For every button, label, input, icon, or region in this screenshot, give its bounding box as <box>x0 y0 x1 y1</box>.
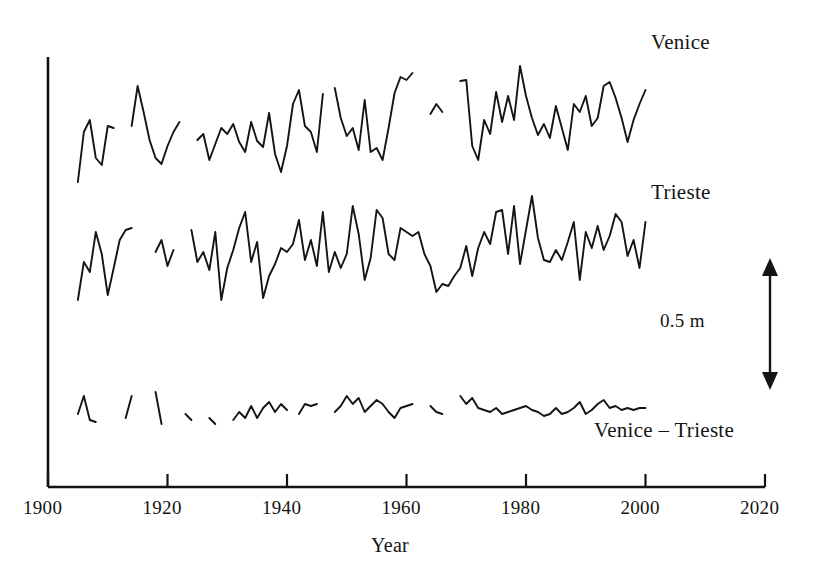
x-tick-label-1960: 1960 <box>382 497 421 519</box>
x-tick-label-1940: 1940 <box>262 497 301 519</box>
series-segment-2-1 <box>126 396 132 418</box>
series-segment-2-2 <box>156 392 162 424</box>
scale-bar-arrow <box>762 258 778 390</box>
series-segment-2-7 <box>335 396 413 418</box>
series-segment-2-3 <box>185 414 191 420</box>
series-segment-2-4 <box>209 418 215 424</box>
scale-bar-arrowhead-up <box>762 258 778 276</box>
series-segment-2-8 <box>430 406 442 414</box>
x-tick-label-1920: 1920 <box>143 497 182 519</box>
series-segment-0-2 <box>197 90 322 172</box>
series-segment-2-9 <box>460 396 645 416</box>
series-segment-0-5 <box>460 66 645 160</box>
x-tick-label-1900: 1900 <box>23 497 62 519</box>
series-label-venice: Venice <box>651 30 710 55</box>
scale-bar-arrowhead-down <box>762 372 778 390</box>
series-segment-1-1 <box>156 240 174 266</box>
x-axis-title: Year <box>371 534 409 557</box>
series-segment-0-1 <box>132 86 180 164</box>
series-label-trieste: Trieste <box>651 180 711 205</box>
series-venice <box>78 66 646 182</box>
data-series-group <box>78 66 646 424</box>
series-segment-0-4 <box>430 104 442 114</box>
series-segment-0-0 <box>78 120 114 182</box>
series-segment-0-3 <box>335 73 413 160</box>
scale-bar-label: 0.5 m <box>660 310 705 332</box>
series-segment-2-5 <box>233 402 287 420</box>
series-segment-2-6 <box>299 404 317 414</box>
series-venice-trieste <box>78 392 646 424</box>
series-segment-1-0 <box>78 228 132 300</box>
x-tick-label-2020: 2020 <box>740 497 779 519</box>
x-tick-label-2000: 2000 <box>621 497 660 519</box>
series-trieste <box>78 196 646 300</box>
figure-container: Venice Trieste Venice – Trieste 0.5 m Ye… <box>0 0 818 581</box>
chart-plot <box>0 0 818 581</box>
x-tick-label-1980: 1980 <box>501 497 540 519</box>
series-segment-1-2 <box>191 196 645 300</box>
series-label-venice-minus-trieste: Venice – Trieste <box>594 418 734 443</box>
series-segment-2-0 <box>78 396 96 422</box>
